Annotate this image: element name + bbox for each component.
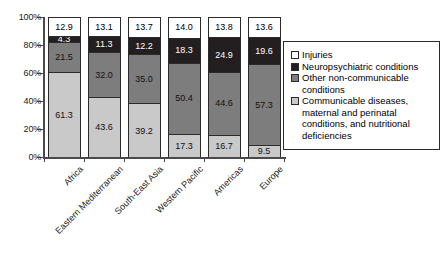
legend-item-injuries[interactable]: Injuries [291, 49, 433, 61]
x-axis-tick [164, 157, 165, 162]
bar-south-east-asia[interactable]: 13.712.235.039.2 [128, 17, 161, 157]
legend-swatch-injuries [291, 51, 299, 59]
bar-segment-value: 17.3 [175, 142, 193, 151]
bar-segment-value: 18.3 [175, 46, 193, 55]
bar-segment-value: 24.9 [215, 51, 233, 60]
bar-segment-communicable: 61.3 [49, 72, 80, 158]
bar-segment-communicable: 9.5 [249, 145, 280, 158]
x-axis-label-text: Europe [257, 164, 285, 192]
bar-segment-value: 13.7 [135, 23, 153, 32]
bar-segment-injuries: 13.1 [89, 18, 120, 36]
bar-segment-value: 43.6 [95, 123, 113, 132]
bar-segment-injuries: 13.6 [249, 18, 280, 37]
bar-segment-value: 32.0 [95, 71, 113, 80]
legend-label: Neuropsychiatric conditions [302, 61, 418, 73]
bar-segment-value: 13.8 [215, 23, 233, 32]
bar-segment-value: 35.0 [135, 75, 153, 84]
x-axis-label-text: Eastern Mediterranean [53, 164, 125, 236]
legend-label: Communicable diseases, maternal and peri… [302, 95, 433, 141]
bar-segment-value: 16.7 [215, 142, 233, 151]
bar-segment-value: 9.5 [258, 147, 271, 156]
bar-segment-injuries: 13.7 [129, 18, 160, 37]
bar-segment-neuropsychiatric: 19.6 [249, 37, 280, 64]
x-axis-label-south-east-asia: South-East Asia [158, 164, 165, 171]
bar-segment-other-non-communicable: 44.6 [209, 72, 240, 134]
bar-segment-other-non-communicable: 21.5 [49, 42, 80, 72]
legend-item-other-non-communicable[interactable]: Other non-communicable conditions [291, 72, 433, 95]
bar-segment-communicable: 43.6 [89, 97, 120, 158]
bar-segment-other-non-communicable: 57.3 [249, 64, 280, 144]
bar-europe[interactable]: 13.619.657.39.5 [248, 17, 281, 157]
bar-segment-injuries: 14.0 [169, 18, 200, 38]
x-axis-tick [84, 157, 85, 162]
bar-segment-value: 12.2 [135, 42, 153, 51]
stacked-bar-chart: 0%20%40%60%80%100% 12.94.321.561.313.111… [0, 0, 446, 274]
y-axis-tick-label: 0% [28, 153, 41, 162]
bar-segment-neuropsychiatric: 18.3 [169, 38, 200, 64]
legend-swatch-other-non-communicable [291, 74, 299, 82]
x-axis-label-text: Americas [211, 164, 245, 198]
bar-segment-other-non-communicable: 50.4 [169, 63, 200, 134]
bar-segment-value: 14.0 [175, 23, 193, 32]
y-axis-tick-label: 60% [24, 69, 41, 78]
x-axis-tick [244, 157, 245, 162]
bar-segment-other-non-communicable: 35.0 [129, 54, 160, 103]
bar-segment-communicable: 39.2 [129, 103, 160, 158]
y-axis-tick-label: 100% [19, 13, 41, 22]
legend-item-communicable[interactable]: Communicable diseases, maternal and peri… [291, 95, 433, 141]
bar-segment-neuropsychiatric: 11.3 [89, 36, 120, 52]
x-axis-tick [284, 157, 285, 162]
x-axis-tick [44, 157, 45, 162]
bar-segment-value: 13.6 [255, 23, 273, 32]
bar-segment-communicable: 17.3 [169, 134, 200, 158]
x-axis-tick [124, 157, 125, 162]
bar-segment-neuropsychiatric: 24.9 [209, 37, 240, 72]
bar-segment-injuries: 13.8 [209, 18, 240, 37]
figure-caption [62, 266, 392, 274]
bar-segment-value: 11.3 [96, 40, 113, 49]
y-axis-tick-label: 40% [24, 97, 41, 106]
bar-africa[interactable]: 12.94.321.561.3 [48, 17, 81, 157]
y-axis-tick-label: 80% [24, 41, 41, 50]
x-axis-label-eastern-mediterranean: Eastern Mediterranean [118, 164, 125, 171]
bar-segment-value: 12.9 [55, 23, 73, 32]
bar-segment-neuropsychiatric: 12.2 [129, 37, 160, 54]
legend-item-neuropsychiatric[interactable]: Neuropsychiatric conditions [291, 61, 433, 73]
bar-segment-value: 13.1 [95, 23, 113, 32]
x-axis-label-western-pacific: Western Pacific [198, 164, 205, 171]
bar-segment-communicable: 16.7 [209, 135, 240, 158]
chart-legend: InjuriesNeuropsychiatric conditionsOther… [283, 41, 440, 150]
y-axis-tick-label: 20% [24, 125, 41, 134]
bar-segment-value: 44.6 [215, 99, 233, 108]
legend-label: Other non-communicable conditions [302, 72, 433, 95]
plot-area: 12.94.321.561.313.111.332.043.613.712.23… [44, 17, 284, 157]
x-axis-label-text: Africa [62, 164, 85, 187]
bar-segment-value: 57.3 [255, 101, 273, 110]
bar-segment-injuries: 12.9 [49, 18, 80, 36]
legend-swatch-communicable [291, 97, 299, 105]
x-axis-label-europe: Europe [278, 164, 285, 171]
bar-segment-value: 39.2 [135, 127, 153, 136]
bar-segment-value: 21.5 [55, 53, 73, 62]
x-axis-tick [204, 157, 205, 162]
x-axis-label-americas: Americas [238, 164, 245, 171]
bar-segment-value: 19.6 [255, 47, 273, 56]
legend-swatch-neuropsychiatric [291, 63, 299, 71]
bar-eastern-mediterranean[interactable]: 13.111.332.043.6 [88, 17, 121, 157]
bar-americas[interactable]: 13.824.944.616.7 [208, 17, 241, 157]
bar-western-pacific[interactable]: 14.018.350.417.3 [168, 17, 201, 157]
legend-label: Injuries [302, 49, 333, 61]
bar-segment-value: 61.3 [55, 111, 73, 120]
bar-segment-other-non-communicable: 32.0 [89, 52, 120, 97]
bar-segment-value: 50.4 [175, 94, 193, 103]
x-axis-label-africa: Africa [78, 164, 85, 171]
